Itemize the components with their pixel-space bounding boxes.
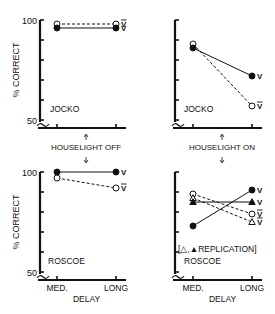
series-label: V — [257, 186, 263, 195]
series-label: V — [257, 218, 263, 227]
series-label: V — [121, 24, 127, 33]
panel-top-right: JOCKOVV — [172, 20, 263, 128]
y-axis-label: % CORRECT — [11, 42, 21, 98]
panel-top-left: 10050% CORRECTJOCKOVV — [11, 16, 127, 128]
figure: 10050% CORRECTJOCKOVVJOCKOVV10050% CORRE… — [0, 0, 275, 314]
panel-bottom-left: 10050% CORRECTMED.LONGDELAYROSCOEVV — [11, 168, 128, 304]
series-label: V — [257, 102, 263, 111]
filled-circle-marker — [113, 169, 119, 175]
replication-note: [△,▲REPLICATION] — [178, 244, 257, 254]
filled-circle-marker — [249, 187, 255, 193]
x-axis-label: DELAY — [73, 294, 101, 304]
x-tick-long: LONG — [240, 283, 264, 293]
open-circle-marker — [54, 175, 60, 181]
y-tick-50: 50 — [27, 116, 37, 126]
filled-circle-marker — [54, 169, 60, 175]
arrow-up-icon — [84, 134, 88, 140]
arrow-down-icon — [220, 157, 224, 163]
houselight-dividers: HOUSELIGHT OFFHOUSELIGHT ON — [51, 134, 255, 163]
filled-circle-marker — [249, 73, 255, 79]
x-tick-med: MED. — [182, 283, 203, 293]
series-1: V — [54, 175, 127, 193]
y-axis-label: % CORRECT — [11, 194, 21, 250]
open-circle-marker — [249, 211, 255, 217]
x-axis-label: DELAY — [209, 294, 237, 304]
series-label: V — [257, 72, 263, 81]
y-tick-100: 100 — [22, 16, 37, 26]
open-circle-marker — [249, 103, 255, 109]
subject-label: ROSCOE — [184, 256, 221, 266]
series-1: V — [54, 24, 127, 33]
arrow-up-icon — [220, 134, 224, 140]
filled-circle-marker — [54, 25, 60, 31]
x-tick-med: MED. — [46, 283, 67, 293]
subject-label: ROSCOE — [48, 256, 85, 266]
filled-circle-marker — [113, 25, 119, 31]
houselight-off-label: HOUSELIGHT OFF — [51, 143, 121, 152]
filled-circle-marker — [190, 45, 196, 51]
panel-bottom-right: MED.LONGDELAYROSCOE[△,▲REPLICATION]VVVV — [172, 172, 264, 304]
y-tick-50: 50 — [27, 268, 37, 278]
x-tick-long: LONG — [104, 283, 128, 293]
filled-circle-marker — [190, 223, 196, 229]
houselight-on-label: HOUSELIGHT ON — [189, 143, 255, 152]
subject-label: JOCKO — [184, 104, 214, 114]
subject-label: JOCKO — [50, 104, 80, 114]
series-label: V — [121, 184, 127, 193]
open-circle-marker — [113, 185, 119, 191]
series-label: V — [121, 168, 127, 177]
series-0: V — [54, 168, 127, 177]
series-1: V — [190, 45, 263, 81]
arrow-down-icon — [84, 157, 88, 163]
y-tick-100: 100 — [22, 168, 37, 178]
series-label: V — [257, 198, 263, 207]
